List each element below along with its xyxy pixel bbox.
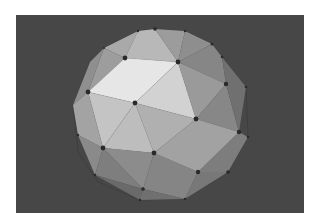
vertex	[133, 101, 138, 106]
vertex-back	[153, 27, 157, 31]
vertex	[196, 170, 200, 174]
vertex	[224, 82, 228, 86]
vertex	[86, 90, 91, 95]
vertex	[237, 130, 241, 134]
vertex-back	[184, 198, 186, 200]
vertex-back	[247, 136, 250, 139]
vertex	[194, 117, 199, 122]
vertex	[101, 146, 106, 151]
vertex	[176, 60, 181, 65]
vertex	[152, 151, 157, 156]
vertex-back	[137, 30, 139, 32]
vertex-back	[184, 30, 186, 32]
vertex-back	[211, 43, 214, 46]
vertex-back	[77, 134, 79, 136]
vertex	[123, 56, 128, 61]
vertex-back	[139, 199, 141, 201]
vertex	[141, 187, 145, 191]
polyhedron-render	[0, 0, 317, 222]
vertex-back	[245, 86, 248, 89]
vertex-back	[221, 56, 224, 59]
vertex	[226, 170, 230, 174]
vertex-back	[94, 174, 96, 176]
vertex-back	[103, 47, 105, 49]
